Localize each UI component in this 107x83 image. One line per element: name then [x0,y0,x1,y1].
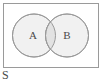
set-b-label: B [63,29,70,41]
venn-diagram-figure: A B S [0,0,107,83]
universal-set-label: S [2,68,9,82]
venn-diagram-canvas: A B S [0,0,107,83]
set-a-label: A [29,29,37,41]
